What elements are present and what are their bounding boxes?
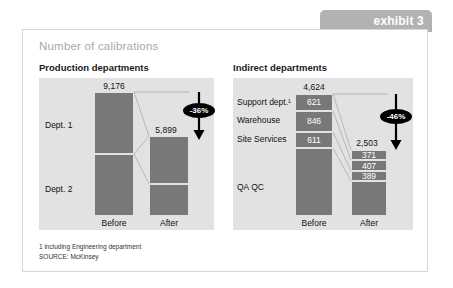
bar-segment-before-qa-qc	[295, 148, 333, 216]
category-label-support-dept: Support dept.¹	[237, 97, 291, 107]
delta-badge-production: -36%	[183, 103, 215, 118]
value-label-after-warehouse: 407	[351, 162, 387, 171]
axis-label-before-production: Before	[91, 218, 137, 228]
category-label-dept2: Dept. 2	[45, 184, 72, 194]
category-label-warehouse: Warehouse	[237, 115, 280, 125]
category-label-site-services: Site Services	[237, 134, 287, 144]
total-label-after-production: 5,899	[143, 125, 189, 135]
panel-heading-indirect: Indirect departments	[233, 62, 327, 73]
category-label-dept1: Dept. 1	[45, 120, 72, 130]
panel-heading-production: Production departments	[39, 62, 149, 73]
value-label-after-site-services: 389	[351, 172, 387, 181]
value-label-after-support: 371	[351, 151, 387, 160]
value-label-before-site-services: 611	[295, 136, 333, 145]
footnote-line-1: 1 including Engineering department	[39, 242, 141, 251]
value-label-before-support: 621	[295, 98, 333, 107]
chart-panel-production: Dept. 1 Dept. 2 9,176 5,899 -36% Before …	[39, 78, 214, 230]
value-label-before-warehouse: 846	[295, 117, 333, 126]
total-label-before-production: 9,176	[91, 81, 137, 91]
footnote-source: SOURCE: McKinsey	[39, 252, 141, 261]
exhibit-tab-label: exhibit 3	[374, 14, 424, 28]
category-label-qa-qc: QA QC	[237, 182, 264, 192]
total-label-before-indirect: 4,624	[291, 82, 337, 92]
bar-segment-after-qa-qc	[351, 181, 387, 216]
exhibit-card: Number of calibrations Production depart…	[22, 29, 428, 272]
footnote: 1 including Engineering department SOURC…	[39, 242, 141, 261]
page-title: Number of calibrations	[39, 40, 158, 52]
bar-segment-after-dept1	[149, 136, 189, 184]
delta-badge-indirect: -46%	[380, 109, 412, 124]
axis-label-after-production: After	[146, 218, 192, 228]
chart-panel-indirect: Support dept.¹ Warehouse Site Services Q…	[233, 78, 413, 230]
bar-segment-before-dept2	[94, 154, 134, 216]
bar-segment-after-dept2	[149, 184, 189, 216]
axis-label-after-indirect: After	[347, 218, 391, 228]
bar-segment-before-dept1	[94, 92, 134, 154]
axis-label-before-indirect: Before	[291, 218, 337, 228]
total-label-after-indirect: 2,503	[345, 138, 389, 148]
